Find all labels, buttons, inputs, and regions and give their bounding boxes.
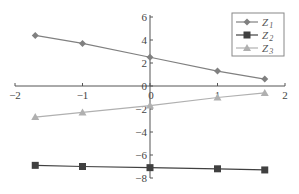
line-chart: −2−1012−8−6−4−20246 Z1Z2Z3 [0, 0, 299, 194]
y-tick-label: 4 [142, 34, 148, 46]
square-marker [244, 32, 251, 39]
x-tick-label: −2 [9, 89, 21, 101]
x-tick-label: 0 [148, 89, 154, 101]
triangle-marker [261, 89, 269, 96]
diamond-marker [147, 54, 154, 61]
x-tick-label: −1 [77, 89, 89, 101]
square-marker [32, 162, 39, 169]
diamond-marker [261, 76, 268, 83]
diamond-marker [32, 32, 39, 39]
x-tick-label: 2 [282, 89, 288, 101]
y-tick-label: 6 [142, 11, 148, 23]
y-tick-label: −8 [135, 172, 147, 184]
square-marker [214, 165, 221, 172]
y-tick-label: −2 [135, 103, 147, 115]
diamond-marker [79, 40, 86, 47]
legend: Z1Z2Z3 [232, 13, 284, 56]
square-marker [261, 166, 268, 173]
y-tick-label: −4 [135, 126, 147, 138]
square-marker [147, 164, 154, 171]
y-tick-label: 0 [142, 80, 148, 92]
y-tick-label: −6 [135, 149, 147, 161]
square-marker [79, 163, 86, 170]
diamond-marker [214, 68, 221, 75]
y-tick-label: 2 [142, 57, 148, 69]
